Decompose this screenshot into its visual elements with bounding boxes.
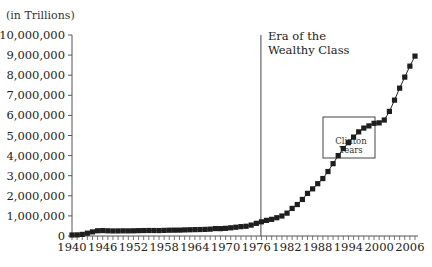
x-tick-label: 1946	[88, 240, 117, 254]
data-point-marker	[305, 191, 310, 196]
data-point-marker	[341, 146, 346, 151]
debt-line-chart: 01,000,0002,000,0003,000,0004,000,0005,0…	[0, 0, 432, 267]
data-point-marker	[167, 228, 172, 233]
x-tick-label: 1970	[211, 240, 240, 254]
data-point-marker	[90, 229, 95, 234]
y-tick-label: 4,000,000	[6, 149, 65, 163]
data-point-marker	[346, 140, 351, 145]
data-point-marker	[156, 228, 161, 233]
data-point-marker	[238, 224, 243, 229]
data-point-marker	[172, 228, 177, 233]
y-tick-label: 1,000,000	[6, 209, 65, 223]
data-point-marker	[197, 227, 202, 232]
x-tick-label: 1976	[242, 240, 271, 254]
data-point-marker	[320, 176, 325, 181]
era-label-line2: Wealthy Class	[268, 43, 350, 57]
data-point-marker	[366, 123, 371, 128]
data-point-marker	[192, 227, 197, 232]
x-tick-label: 1952	[119, 240, 148, 254]
data-point-marker	[264, 218, 269, 223]
data-point-marker	[223, 226, 228, 231]
data-point-marker	[407, 64, 412, 69]
x-tick-label: 2006	[395, 240, 424, 254]
data-point-marker	[146, 228, 151, 233]
x-tick-label: 1964	[180, 240, 209, 254]
x-tick-label: 1988	[303, 240, 332, 254]
data-point-marker	[80, 232, 85, 237]
y-tick-label: 5,000,000	[6, 129, 65, 143]
data-point-marker	[259, 219, 264, 224]
data-point-marker	[397, 86, 402, 91]
x-tick-label: 1982	[272, 240, 301, 254]
data-point-marker	[300, 197, 305, 202]
data-point-marker	[228, 225, 233, 230]
data-point-marker	[279, 213, 284, 218]
y-tick-label: 7,000,000	[6, 88, 65, 102]
data-point-marker	[249, 223, 254, 228]
data-point-marker	[131, 228, 136, 233]
data-point-marker	[336, 153, 341, 158]
data-point-marker	[151, 228, 156, 233]
data-point-marker	[315, 181, 320, 186]
y-tick-label: 3,000,000	[6, 169, 65, 183]
data-point-marker	[361, 125, 366, 130]
data-point-marker	[295, 202, 300, 207]
x-tick-label: 1958	[150, 240, 179, 254]
y-tick-label: 2,000,000	[6, 189, 65, 203]
x-axis: 1940194619521958196419701976198219881994…	[57, 236, 424, 254]
data-point-marker	[377, 120, 382, 125]
data-point-marker	[187, 227, 192, 232]
data-point-marker	[412, 54, 417, 59]
era-label-line1: Era of the	[268, 29, 326, 43]
x-tick-label: 2000	[365, 240, 394, 254]
data-point-marker	[182, 227, 187, 232]
data-point-marker	[100, 228, 105, 233]
data-point-marker	[208, 227, 213, 232]
data-point-marker	[402, 75, 407, 80]
x-tick-label: 1940	[57, 240, 86, 254]
x-tick-label: 1994	[334, 240, 363, 254]
data-point-marker	[284, 211, 289, 216]
data-point-marker	[382, 117, 387, 122]
data-point-marker	[392, 98, 397, 103]
data-point-marker	[177, 228, 182, 233]
data-point-marker	[85, 231, 90, 236]
data-point-marker	[243, 224, 248, 229]
data-point-marker	[110, 228, 115, 233]
data-point-marker	[75, 232, 80, 237]
data-point-marker	[162, 228, 167, 233]
y-axis: 01,000,0002,000,0003,000,0004,000,0005,0…	[0, 28, 72, 243]
data-point-marker	[105, 228, 110, 233]
data-point-marker	[325, 169, 330, 174]
data-point-marker	[310, 186, 315, 191]
data-point-marker	[213, 226, 218, 231]
data-point-marker	[269, 217, 274, 222]
data-point-marker	[290, 206, 295, 211]
data-point-marker	[69, 232, 74, 237]
data-point-marker	[233, 225, 238, 230]
data-point-marker	[203, 227, 208, 232]
data-point-marker	[387, 109, 392, 114]
data-point-marker	[218, 226, 223, 231]
data-point-marker	[274, 215, 279, 220]
data-point-marker	[115, 228, 120, 233]
y-tick-label: 8,000,000	[6, 68, 65, 82]
data-point-marker	[356, 129, 361, 134]
data-point-marker	[126, 228, 131, 233]
data-point-marker	[141, 228, 146, 233]
y-tick-label: 10,000,000	[0, 28, 65, 42]
data-point-marker	[136, 228, 141, 233]
y-tick-label: 6,000,000	[6, 108, 65, 122]
data-point-marker	[254, 221, 259, 226]
y-tick-label: 9,000,000	[6, 48, 65, 62]
data-point-marker	[371, 121, 376, 126]
data-point-marker	[330, 161, 335, 166]
data-point-marker	[121, 228, 126, 233]
data-point-marker	[351, 134, 356, 139]
data-point-marker	[95, 228, 100, 233]
